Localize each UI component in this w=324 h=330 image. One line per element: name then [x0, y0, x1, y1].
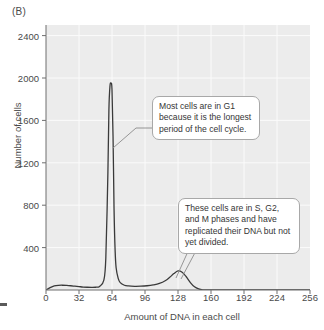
- y-tick-label: 1600: [0, 115, 39, 126]
- x-tick-label: 224: [262, 292, 292, 303]
- y-tick-label: 1200: [0, 157, 39, 168]
- callout-g1-phase: Most cells are in G1 because it is the l…: [152, 96, 260, 140]
- y-tick-marks: [42, 36, 46, 248]
- x-tick-label: 0: [31, 292, 61, 303]
- dna-content-histogram-figure: (B) Number of cells 40080012001600200024…: [0, 0, 324, 330]
- x-axis-title: Amount of DNA in each cell: [40, 311, 324, 322]
- x-tick-label: 32: [64, 292, 94, 303]
- x-tick-label: 128: [163, 292, 193, 303]
- page-edge-artifact: [0, 303, 7, 306]
- x-tick-label: 256: [295, 292, 324, 303]
- y-tick-label: 2000: [0, 73, 39, 84]
- callout-s-g2-m-phase: These cells are in S, G2, and M phases a…: [178, 198, 300, 254]
- y-tick-label: 800: [0, 200, 39, 211]
- y-tick-label: 400: [0, 242, 39, 253]
- x-tick-label: 160: [196, 292, 226, 303]
- y-tick-label: 2400: [0, 30, 39, 41]
- chart-plot-area: [0, 0, 324, 330]
- x-tick-label: 96: [130, 292, 160, 303]
- x-tick-label: 192: [229, 292, 259, 303]
- x-tick-label: 64: [97, 292, 127, 303]
